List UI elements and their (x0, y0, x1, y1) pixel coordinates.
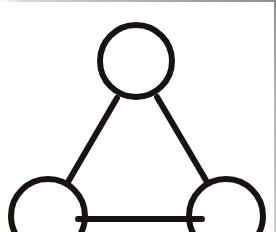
node-top (100, 25, 172, 97)
triangle-node-diagram (0, 0, 276, 232)
edge-right (157, 97, 207, 182)
node-bottom-left (11, 179, 85, 232)
diagram-canvas: Triangle node diagram (0, 0, 276, 232)
nodes-group (11, 25, 263, 232)
edges-group (68, 97, 207, 219)
edge-left (68, 98, 117, 182)
node-bottom-right (189, 179, 263, 232)
